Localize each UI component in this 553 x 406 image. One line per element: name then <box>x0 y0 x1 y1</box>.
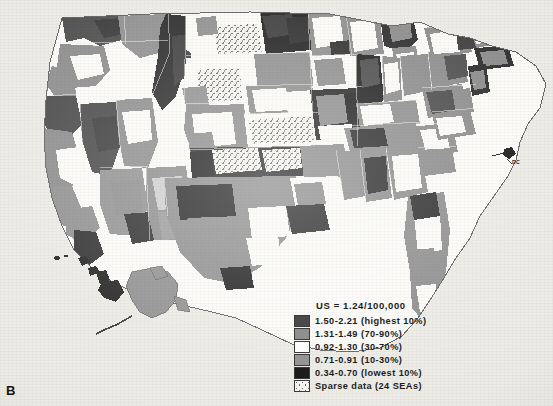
legend-national-rate: US = 1.24/100,000 <box>316 300 462 311</box>
legend-swatch-lowest <box>294 367 310 379</box>
legend-row: 0.92-1.30 (30-70%) <box>294 340 462 353</box>
figure-canvas: US = 1.24/100,000 1.50-2.21 (highest 10%… <box>0 0 553 406</box>
legend-label-sparse-data: Sparse data (24 SEAs) <box>315 381 422 391</box>
us-choropleth-map <box>0 0 553 406</box>
legend-swatch-30-70 <box>294 341 310 353</box>
legend-swatch-highest <box>294 315 310 327</box>
legend-swatch-sparse-data <box>294 380 310 392</box>
legend-row: 0.34-0.70 (lowest 10%) <box>294 366 462 379</box>
legend-row: 1.50-2.21 (highest 10%) <box>294 314 462 327</box>
panel-label: B <box>6 383 16 398</box>
legend-rows: 1.50-2.21 (highest 10%) 1.31-1.49 (70-90… <box>294 314 462 392</box>
legend-row: 1.31-1.49 (70-90%) <box>294 327 462 340</box>
legend-label-30-70: 0.92-1.30 (30-70%) <box>315 342 402 352</box>
legend-row: 0.71-0.91 (10-30%) <box>294 353 462 366</box>
legend-label-70-90: 1.31-1.49 (70-90%) <box>315 329 402 339</box>
legend-swatch-10-30 <box>294 354 310 366</box>
legend-swatch-70-90 <box>294 328 310 340</box>
map-legend: US = 1.24/100,000 1.50-2.21 (highest 10%… <box>294 300 462 392</box>
dc-callout-label: DC <box>512 159 520 165</box>
legend-label-lowest: 0.34-0.70 (lowest 10%) <box>315 368 422 378</box>
legend-label-highest: 1.50-2.21 (highest 10%) <box>315 316 426 326</box>
legend-row: Sparse data (24 SEAs) <box>294 379 462 392</box>
legend-label-10-30: 0.71-0.91 (10-30%) <box>315 355 402 365</box>
